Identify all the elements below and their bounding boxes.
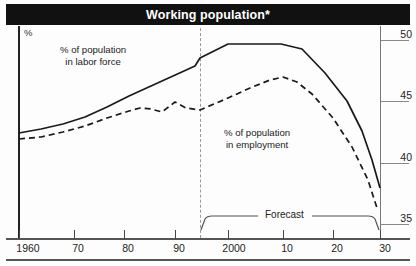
- x-tick-label-1960: 1960: [16, 242, 39, 254]
- x-tick-1960: [19, 230, 20, 239]
- y-gridline-50: [381, 40, 409, 41]
- y-axis-line: [18, 26, 20, 239]
- forecast-bracket: [0, 0, 416, 266]
- page-title: Working population*: [146, 8, 270, 22]
- y-tick-label-40: 40: [388, 151, 412, 163]
- annotation-employment: % of population in employment: [224, 127, 290, 151]
- x-axis-line: [6, 238, 410, 240]
- annotation-labor-force: % of population in labor force: [60, 44, 126, 68]
- y-gridline-45: [381, 101, 409, 102]
- annotation-labor-line2: in labor force: [65, 56, 120, 67]
- x-tick-2020: [333, 230, 334, 239]
- y-tick-label-35: 35: [388, 212, 412, 224]
- x-tick-label-1970: 70: [72, 242, 84, 254]
- x-tick-2000: [228, 230, 229, 239]
- y-tick-label-45: 45: [388, 89, 412, 101]
- plot-right-edge: [380, 26, 381, 239]
- forecast-label: Forecast: [261, 209, 308, 220]
- x-tick-1990: [175, 230, 176, 239]
- y-gridline-40: [381, 163, 409, 164]
- chart-title-bar: Working population*: [6, 4, 410, 25]
- x-tick-1970: [74, 230, 75, 239]
- x-tick-2010: [283, 230, 284, 239]
- x-tick-label-2020: 20: [331, 242, 343, 254]
- y-tick-label-50: 50: [388, 28, 412, 40]
- x-tick-label-1990: 90: [173, 242, 185, 254]
- x-tick-label-2010: 10: [281, 242, 293, 254]
- annotation-employ-line2: in employment: [226, 139, 288, 150]
- chart-curves: [0, 0, 416, 266]
- x-axis-baseline: [6, 259, 410, 261]
- x-tick-2030: [380, 230, 381, 239]
- chart-root: Working population* % 50 45 40 35 1960 7…: [0, 0, 416, 266]
- x-tick-1980: [124, 230, 125, 239]
- annotation-employ-line1: % of population: [224, 127, 290, 138]
- y-axis-unit-label: %: [24, 27, 32, 38]
- annotation-labor-line1: % of population: [60, 44, 126, 55]
- series-employment-line: [19, 77, 377, 208]
- x-tick-label-1980: 80: [122, 242, 134, 254]
- forecast-divider-line: [200, 28, 201, 238]
- x-tick-label-2000: 2000: [222, 242, 245, 254]
- y-gridline-35: [381, 224, 409, 225]
- x-tick-label-2030: 30: [379, 242, 391, 254]
